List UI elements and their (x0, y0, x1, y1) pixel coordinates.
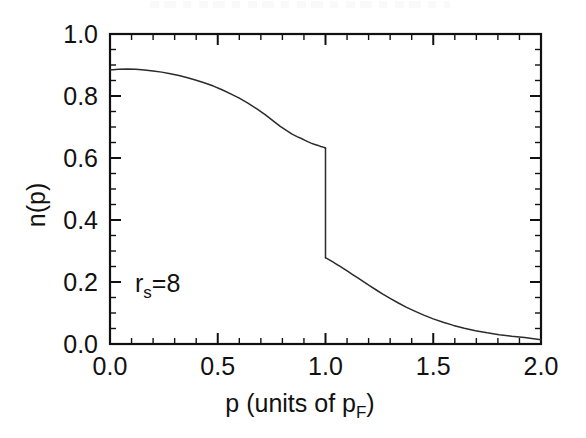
y-axis-tick-labels: 0.00.20.40.60.81.0 (63, 20, 98, 358)
y-tick-label: 0.4 (63, 206, 98, 234)
annotation-rs-subscript: s (143, 283, 152, 302)
y-tick-label: 0.2 (63, 268, 98, 296)
x-axis-title-subscript: F (356, 403, 366, 422)
momentum-distribution-chart: 0.00.51.01.52.0 0.00.20.40.60.81.0 n(p) … (0, 0, 586, 438)
y-tick-label: 0.0 (63, 330, 98, 358)
x-tick-label: 1.5 (416, 352, 451, 380)
figure-panel: 0.00.51.01.52.0 0.00.20.40.60.81.0 n(p) … (0, 0, 586, 438)
y-tick-label: 0.8 (63, 82, 98, 110)
x-tick-label: 0.5 (200, 352, 235, 380)
curve-below-fermi-momentum (110, 69, 326, 148)
x-axis-tick-labels: 0.00.51.01.52.0 (93, 352, 559, 380)
y-tick-label: 0.6 (63, 144, 98, 172)
x-tick-label: 2.0 (524, 352, 559, 380)
x-axis-title-main: p (units of p (225, 389, 356, 417)
curve-above-fermi-momentum (326, 258, 542, 340)
y-tick-label: 1.0 (63, 20, 98, 48)
annotation-rs-value: rs=8 (135, 269, 180, 302)
annotation-rs-main: r (135, 269, 143, 297)
x-axis-title: p (units of pF) (225, 389, 374, 422)
y-axis-title: n(p) (22, 183, 50, 227)
x-tick-label: 1.0 (308, 352, 343, 380)
data-series-n-of-p (110, 69, 541, 340)
annotation-rs-tail: =8 (152, 269, 181, 297)
x-axis-title-tail: ) (366, 389, 374, 417)
